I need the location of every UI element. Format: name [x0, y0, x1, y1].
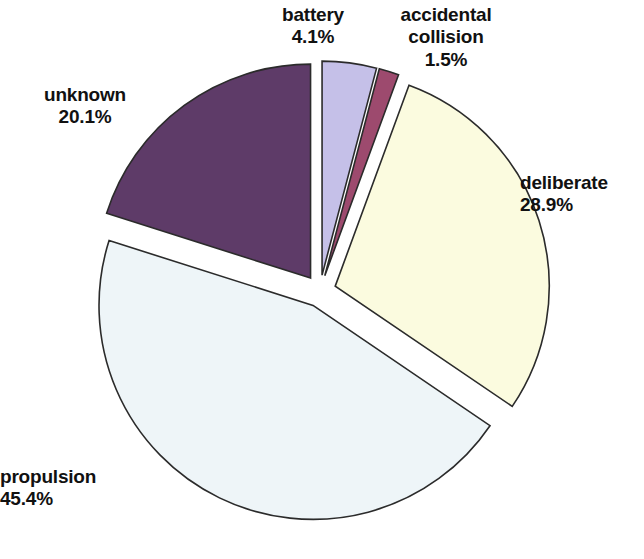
slice-label-accidental-collision: accidental collision 1.5%: [376, 4, 516, 71]
pie-slices: [99, 61, 549, 519]
slice-label-accidental-collision-value: 1.5%: [376, 49, 516, 71]
slice-label-battery-name: battery: [258, 4, 368, 26]
slice-label-unknown-value: 20.1%: [10, 106, 160, 128]
slice-label-propulsion-name: propulsion: [0, 466, 142, 488]
pie-chart: battery 4.1% accidental collision 1.5% u…: [0, 0, 644, 559]
slice-label-propulsion-value: 45.4%: [0, 488, 142, 510]
slice-label-unknown: unknown 20.1%: [10, 84, 160, 129]
slice-label-deliberate-name: deliberate: [520, 172, 644, 194]
slice-label-deliberate: deliberate 28.9%: [520, 172, 644, 217]
slice-label-accidental-collision-name-line2: collision: [376, 26, 516, 48]
slice-label-accidental-collision-name-line1: accidental: [376, 4, 516, 26]
slice-label-propulsion: propulsion 45.4%: [0, 466, 142, 511]
slice-label-battery: battery 4.1%: [258, 4, 368, 49]
slice-label-unknown-name: unknown: [10, 84, 160, 106]
slice-label-battery-value: 4.1%: [258, 26, 368, 48]
slice-label-deliberate-value: 28.9%: [520, 194, 644, 216]
